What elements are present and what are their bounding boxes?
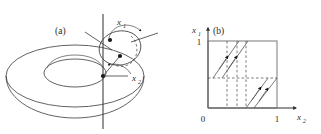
panel-b-trajectory-lower-1-arrow xyxy=(252,87,261,100)
panel-a-label-x1-sub: 1 xyxy=(123,23,126,29)
torus-surface-point xyxy=(118,54,122,58)
panel-b-x-axis-label-sub: 2 xyxy=(303,118,306,124)
panel-b-square-boundary xyxy=(208,41,277,108)
torus-inner-hole-ellipse xyxy=(44,59,106,87)
panel-b-y-tick-1: 1 xyxy=(197,37,202,47)
panel-b-unit-square: (b) x 1 x 2 1 0 1 xyxy=(191,25,306,124)
torus-outer-lower-silhouette xyxy=(6,76,144,118)
figure-canvas: (a) x 1 x 2 xyxy=(0,0,321,134)
panel-b-y-axis-label: x xyxy=(191,25,196,35)
panel-b-x-tick-1: 1 xyxy=(275,114,280,124)
panel-b-x-axis-label: x xyxy=(296,112,301,122)
torus-inner-far-rim xyxy=(47,55,103,68)
panel-b-origin-tick: 0 xyxy=(201,114,206,124)
torus-meridian-top-point xyxy=(108,38,112,42)
torus-tangent-line-right xyxy=(131,33,158,42)
panel-a-label: (a) xyxy=(55,26,66,37)
panel-b-trajectory-lower-2-arrow xyxy=(259,88,268,101)
panel-b-trajectory-upper-2-arrow xyxy=(228,56,237,69)
panel-a-torus: (a) x 1 x 2 xyxy=(6,14,158,129)
panel-a-label-x2-sub: 2 xyxy=(138,79,141,85)
panel-a-label-x1: x xyxy=(116,17,121,27)
panel-a-label-x2: x xyxy=(131,73,136,83)
figure-root: (a) x 1 x 2 xyxy=(0,0,321,134)
panel-b-label: (b) xyxy=(213,26,224,37)
